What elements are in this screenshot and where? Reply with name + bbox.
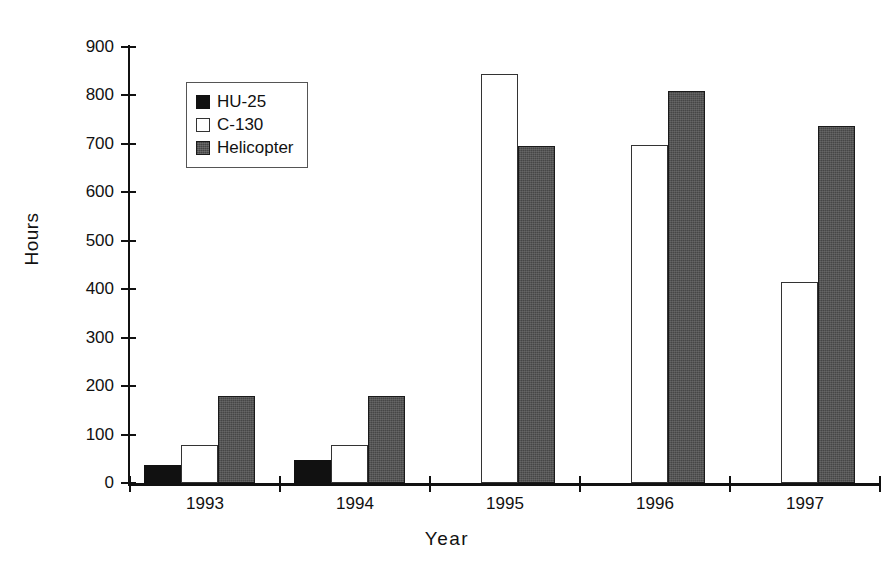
x-axis-tick-label: 1996 [595,494,715,514]
x-axis-tick-label: 1997 [745,494,865,514]
x-axis-title: Year [0,528,894,550]
y-axis-tick-label: 500 [34,232,114,249]
x-axis-tick [879,476,881,492]
legend-item-helicopter: Helicopter [196,136,294,159]
y-axis-tick [121,240,136,242]
y-axis-tick [121,434,136,436]
x-axis-line [128,483,880,486]
y-axis-tick-label: 800 [34,86,114,103]
legend-label-helicopter: Helicopter [217,139,294,156]
bar-c-130-1994 [331,445,368,483]
y-axis-line [128,45,130,485]
y-axis-tick-label: 200 [34,377,114,394]
bar-c-130-1996 [631,145,668,483]
x-axis-tick [429,476,431,492]
x-axis-tick [729,476,731,492]
y-axis-tick [121,191,136,193]
x-axis-tick [579,476,581,492]
bar-helicopter-1997 [818,126,855,483]
bar-c-130-1997 [781,282,818,483]
legend-swatch-hu-25 [196,95,210,109]
y-axis-tick-label: 600 [34,183,114,200]
legend-label-c-130: C-130 [217,116,263,133]
bar-helicopter-1996 [668,91,705,483]
bar-c-130-1993 [181,445,218,483]
y-axis-tick [121,94,136,96]
x-axis-tick-label: 1994 [295,494,415,514]
x-axis-tick-label: 1993 [145,494,265,514]
legend-swatch-c-130 [196,118,210,132]
x-axis-tick [279,476,281,492]
legend-item-hu-25: HU-25 [196,90,294,113]
y-axis-tick [121,337,136,339]
legend-swatch-helicopter [196,141,210,155]
y-axis-tick-label: 300 [34,329,114,346]
y-axis-tick [121,288,136,290]
y-axis-tick [121,143,136,145]
x-axis-tick [129,476,131,492]
legend-item-c-130: C-130 [196,113,294,136]
y-axis-tick-label: 900 [34,38,114,55]
legend: HU-25 C-130 Helicopter [186,82,308,168]
y-axis-tick-label: 700 [34,135,114,152]
bar-chart: Hours 0100200300400500600700800900 19931… [0,0,894,577]
x-axis-tick-label: 1995 [445,494,565,514]
bar-c-130-1995 [481,74,518,483]
y-axis-tick [121,46,136,48]
bar-hu-25-1993 [144,465,181,483]
bar-hu-25-1994 [294,460,331,483]
bar-helicopter-1994 [368,396,405,483]
bar-helicopter-1993 [218,396,255,483]
bar-helicopter-1995 [518,146,555,483]
legend-label-hu-25: HU-25 [217,93,266,110]
y-axis-tick-label: 100 [34,426,114,443]
y-axis-tick-label: 0 [34,474,114,491]
y-axis-tick [121,385,136,387]
y-axis-tick-label: 400 [34,280,114,297]
